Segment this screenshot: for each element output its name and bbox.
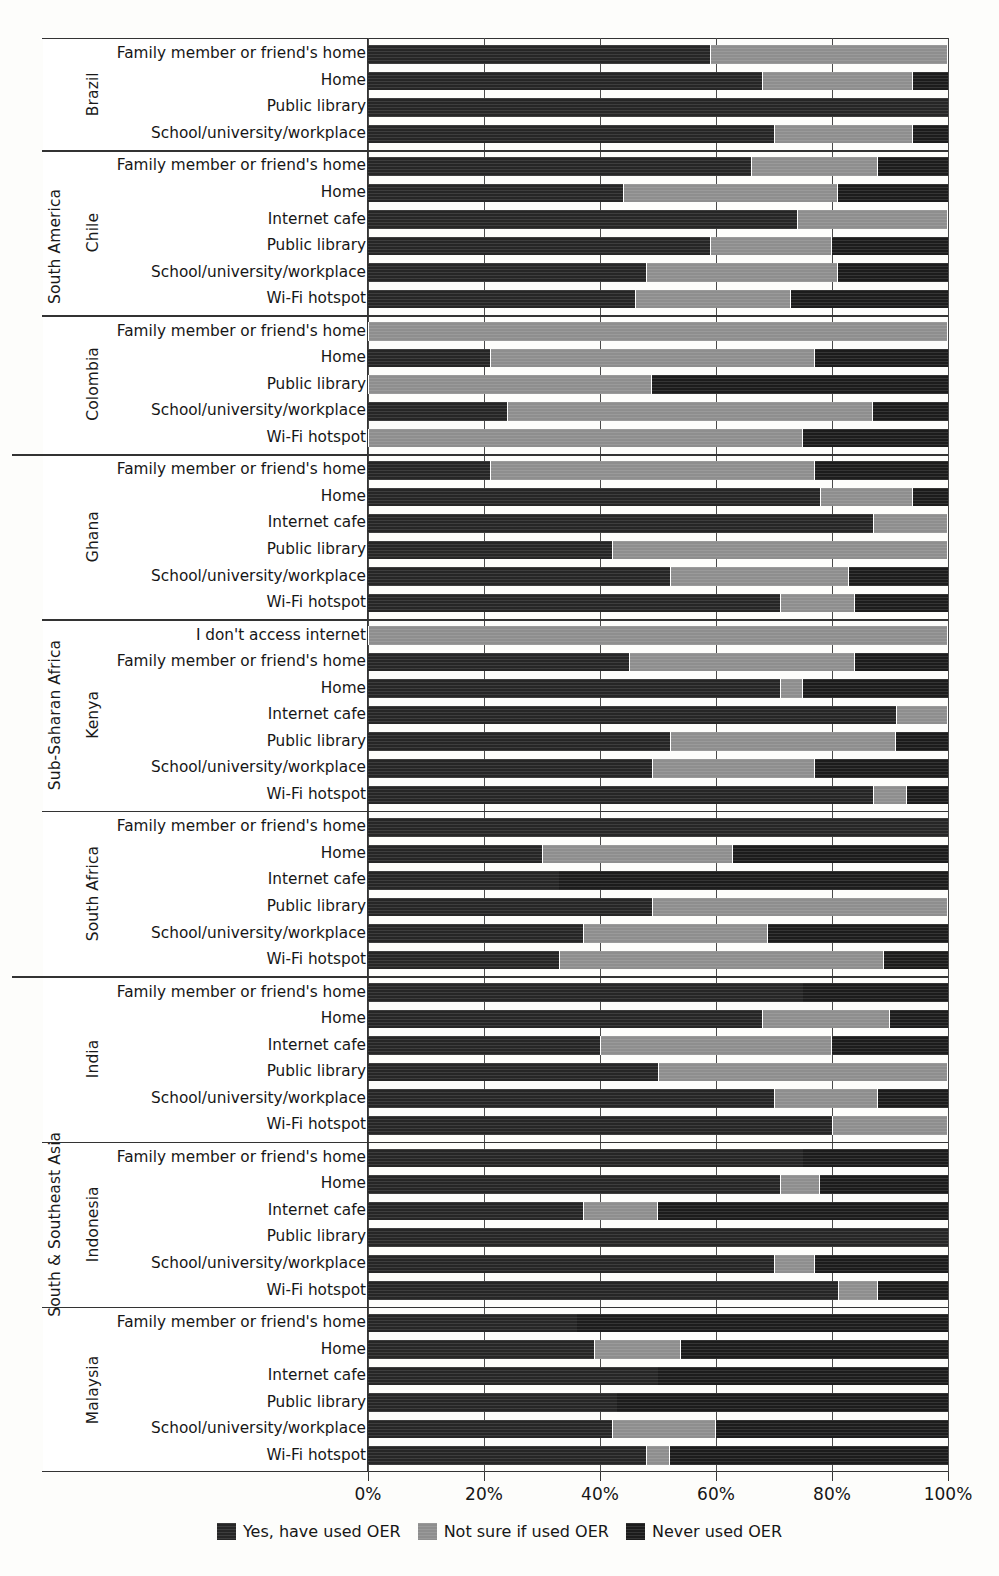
bar-row	[368, 263, 948, 282]
category-label: School/university/workplace	[151, 926, 366, 941]
bar-row	[368, 786, 948, 805]
country-label-south-africa: South Africa	[84, 814, 102, 973]
category-label: Home	[321, 681, 366, 696]
bar-row	[368, 237, 948, 256]
bar-segment-yes	[368, 1228, 948, 1247]
bar-segment-yes	[368, 461, 490, 480]
bar-row	[368, 98, 948, 117]
x-tick-label: 60%	[671, 1484, 761, 1504]
bar-segment-never	[577, 1314, 948, 1333]
bar-segment-notsure	[873, 514, 948, 533]
bar-segment-yes	[368, 679, 780, 698]
category-label: Home	[321, 1342, 366, 1357]
bar-row	[368, 461, 948, 480]
category-label: School/university/workplace	[151, 1091, 366, 1106]
category-label: Wi-Fi hotspot	[267, 1117, 366, 1132]
bar-row	[368, 1202, 948, 1221]
bar-row	[368, 1393, 948, 1412]
bar-segment-yes	[368, 125, 774, 144]
bar-segment-never	[617, 1393, 948, 1412]
bar-segment-never	[884, 951, 948, 970]
bar-segment-yes	[368, 1420, 612, 1439]
bar-segment-notsure	[368, 626, 948, 645]
bar-row	[368, 488, 948, 507]
bar-segment-yes	[368, 349, 490, 368]
bar-segment-notsure	[820, 488, 913, 507]
bar-segment-yes	[368, 263, 646, 282]
region-separator	[12, 454, 948, 456]
bar-row	[368, 1281, 948, 1300]
bar-segment-never	[913, 488, 948, 507]
category-label: Wi-Fi hotspot	[267, 1448, 366, 1463]
bar-segment-never	[907, 786, 948, 805]
legend-item: Yes, have used OER	[217, 1522, 401, 1541]
bar-segment-yes	[368, 98, 948, 117]
bar-segment-never	[820, 1175, 948, 1194]
bar-segment-yes	[368, 402, 507, 421]
category-label: Public library	[267, 1229, 366, 1244]
category-label: Family member or friend's home	[117, 1150, 366, 1165]
bar-row	[368, 759, 948, 778]
bar-segment-never	[681, 1340, 948, 1359]
bar-row	[368, 1036, 948, 1055]
category-label: Home	[321, 185, 366, 200]
bar-segment-never	[878, 157, 948, 176]
bar-segment-never	[913, 72, 948, 91]
bar-row	[368, 924, 948, 943]
category-label: Internet cafe	[268, 515, 366, 530]
bar-segment-yes	[368, 1255, 774, 1274]
bar-row	[368, 1228, 948, 1247]
bar-segment-yes	[368, 1393, 617, 1412]
bar-segment-notsure	[490, 461, 815, 480]
bar-segment-never	[768, 924, 948, 943]
bar-segment-yes	[368, 594, 780, 613]
bar-row	[368, 157, 948, 176]
category-label: Internet cafe	[268, 1368, 366, 1383]
bar-segment-never	[815, 349, 948, 368]
bar-segment-notsure	[368, 429, 803, 448]
bar-segment-notsure	[583, 1202, 658, 1221]
x-tick-mark	[832, 1472, 833, 1481]
category-label: Family member or friend's home	[117, 462, 366, 477]
legend-label: Yes, have used OER	[243, 1522, 401, 1541]
category-label: School/university/workplace	[151, 1256, 366, 1271]
bar-segment-yes	[368, 898, 652, 917]
category-label: Wi-Fi hotspot	[267, 430, 366, 445]
bar-row	[368, 322, 948, 341]
bar-segment-never	[832, 1036, 948, 1055]
country-separator	[42, 619, 948, 620]
country-separator	[42, 150, 948, 151]
country-separator	[42, 1142, 948, 1143]
bar-segment-notsure	[797, 210, 948, 229]
bar-segment-never	[855, 653, 948, 672]
bar-segment-notsure	[873, 786, 908, 805]
bar-segment-yes	[368, 1010, 762, 1029]
bar-segment-yes	[368, 732, 670, 751]
bar-row	[368, 349, 948, 368]
bar-segment-yes	[368, 1281, 838, 1300]
category-label: Internet cafe	[268, 1038, 366, 1053]
bar-segment-notsure	[670, 732, 896, 751]
bar-row	[368, 45, 948, 64]
category-label: Home	[321, 1176, 366, 1191]
country-label-malaysia: Malaysia	[84, 1310, 102, 1469]
category-label: Wi-Fi hotspot	[267, 787, 366, 802]
country-separator	[42, 811, 948, 812]
category-label: Family member or friend's home	[117, 654, 366, 669]
legend-swatch-yes	[217, 1523, 236, 1540]
category-label: School/university/workplace	[151, 403, 366, 418]
category-label: Family member or friend's home	[117, 158, 366, 173]
bar-segment-never	[652, 375, 948, 394]
country-label-chile: Chile	[84, 153, 102, 312]
bar-row	[368, 818, 948, 837]
bar-segment-notsure	[658, 1063, 948, 1082]
oer-access-location-chart: Family member or friend's homeHomePublic…	[0, 0, 999, 1576]
category-label: Public library	[267, 238, 366, 253]
bar-segment-notsure	[838, 1281, 879, 1300]
x-tick-mark	[948, 1472, 949, 1481]
region-label-south-america: South America	[46, 41, 64, 451]
bar-segment-yes	[368, 1367, 658, 1386]
x-tick-label: 0%	[323, 1484, 413, 1504]
category-label: School/university/workplace	[151, 569, 366, 584]
bar-segment-never	[838, 263, 948, 282]
